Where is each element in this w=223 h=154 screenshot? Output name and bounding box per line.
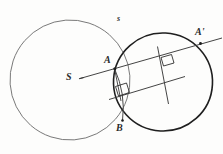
tick-at-S — [79, 78, 84, 79]
label-circle-s: s — [117, 15, 120, 23]
right-angle-mark-upper-right — [161, 55, 174, 67]
label-point-A-prime: A' — [195, 27, 204, 37]
geometry-diagram: S A A' B s — [0, 0, 223, 154]
geometry-canvas — [0, 0, 223, 154]
point-A-dot — [113, 67, 116, 70]
label-center-S: S — [66, 72, 72, 82]
label-point-A: A — [104, 55, 111, 65]
label-point-B: B — [116, 123, 123, 133]
circle-right-small — [111, 30, 215, 133]
point-A-prime-dot — [199, 42, 202, 45]
